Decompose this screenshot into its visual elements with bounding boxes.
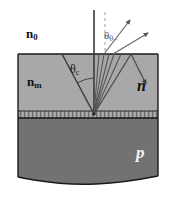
figure-total-internal-reflection: n0 nm n p θ0 θc [0,0,171,198]
label-theta-critical: θc [70,63,79,77]
label-theta-zero: θ0 [104,30,113,43]
slab-structure [18,54,158,184]
emission-point-dot [92,112,95,115]
label-medium-index: nm [27,75,42,90]
label-p-layer: p [136,144,145,161]
label-n-layer: n [137,78,146,94]
label-ambient-index: n0 [26,27,38,42]
junction-depletion-band [18,111,158,118]
